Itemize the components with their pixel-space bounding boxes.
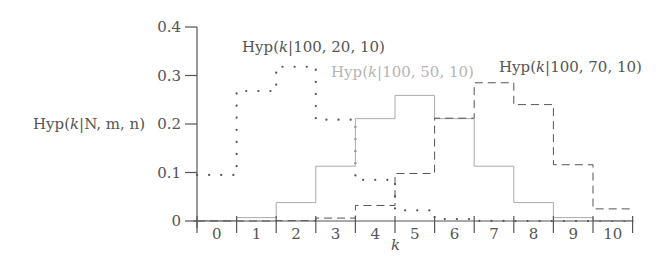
hypergeometric-chart: 00.10.20.30.4 012345678910 Hyp(k|N, m, n… bbox=[0, 0, 666, 277]
y-tick-label: 0 bbox=[171, 212, 181, 230]
x-tick-label: 6 bbox=[450, 225, 460, 243]
x-tick-label: 1 bbox=[252, 225, 262, 243]
series-label-m50: Hyp(k|100, 50, 10) bbox=[331, 63, 474, 81]
x-tick-label: 2 bbox=[291, 225, 301, 243]
x-tick-label: 3 bbox=[331, 225, 341, 243]
series-line-1 bbox=[197, 95, 633, 220]
series-line-2 bbox=[197, 83, 633, 221]
x-tick-label: 10 bbox=[603, 225, 622, 243]
x-axis-ticks: 012345678910 bbox=[197, 216, 633, 243]
x-tick-label: 4 bbox=[370, 225, 380, 243]
series-label-m20: Hyp(k|100, 20, 10) bbox=[242, 38, 385, 56]
series-line-0 bbox=[197, 67, 633, 221]
x-tick-label: 7 bbox=[489, 225, 499, 243]
plot-series bbox=[197, 67, 633, 221]
x-tick-label: 9 bbox=[568, 225, 578, 243]
y-tick-label: 0.3 bbox=[157, 67, 181, 85]
y-tick-label: 0.2 bbox=[157, 115, 181, 133]
y-tick-label: 0.4 bbox=[157, 18, 181, 36]
x-axis-label: k bbox=[391, 236, 400, 254]
series-label-m70: Hyp(k|100, 70, 10) bbox=[499, 58, 642, 76]
y-tick-label: 0.1 bbox=[157, 164, 181, 182]
y-axis-ticks: 00.10.20.30.4 bbox=[157, 18, 197, 230]
x-tick-label: 8 bbox=[529, 225, 539, 243]
x-tick-label: 5 bbox=[410, 225, 420, 243]
x-tick-label: 0 bbox=[212, 225, 222, 243]
y-axis-label: Hyp(k|N, m, n) bbox=[33, 115, 145, 133]
